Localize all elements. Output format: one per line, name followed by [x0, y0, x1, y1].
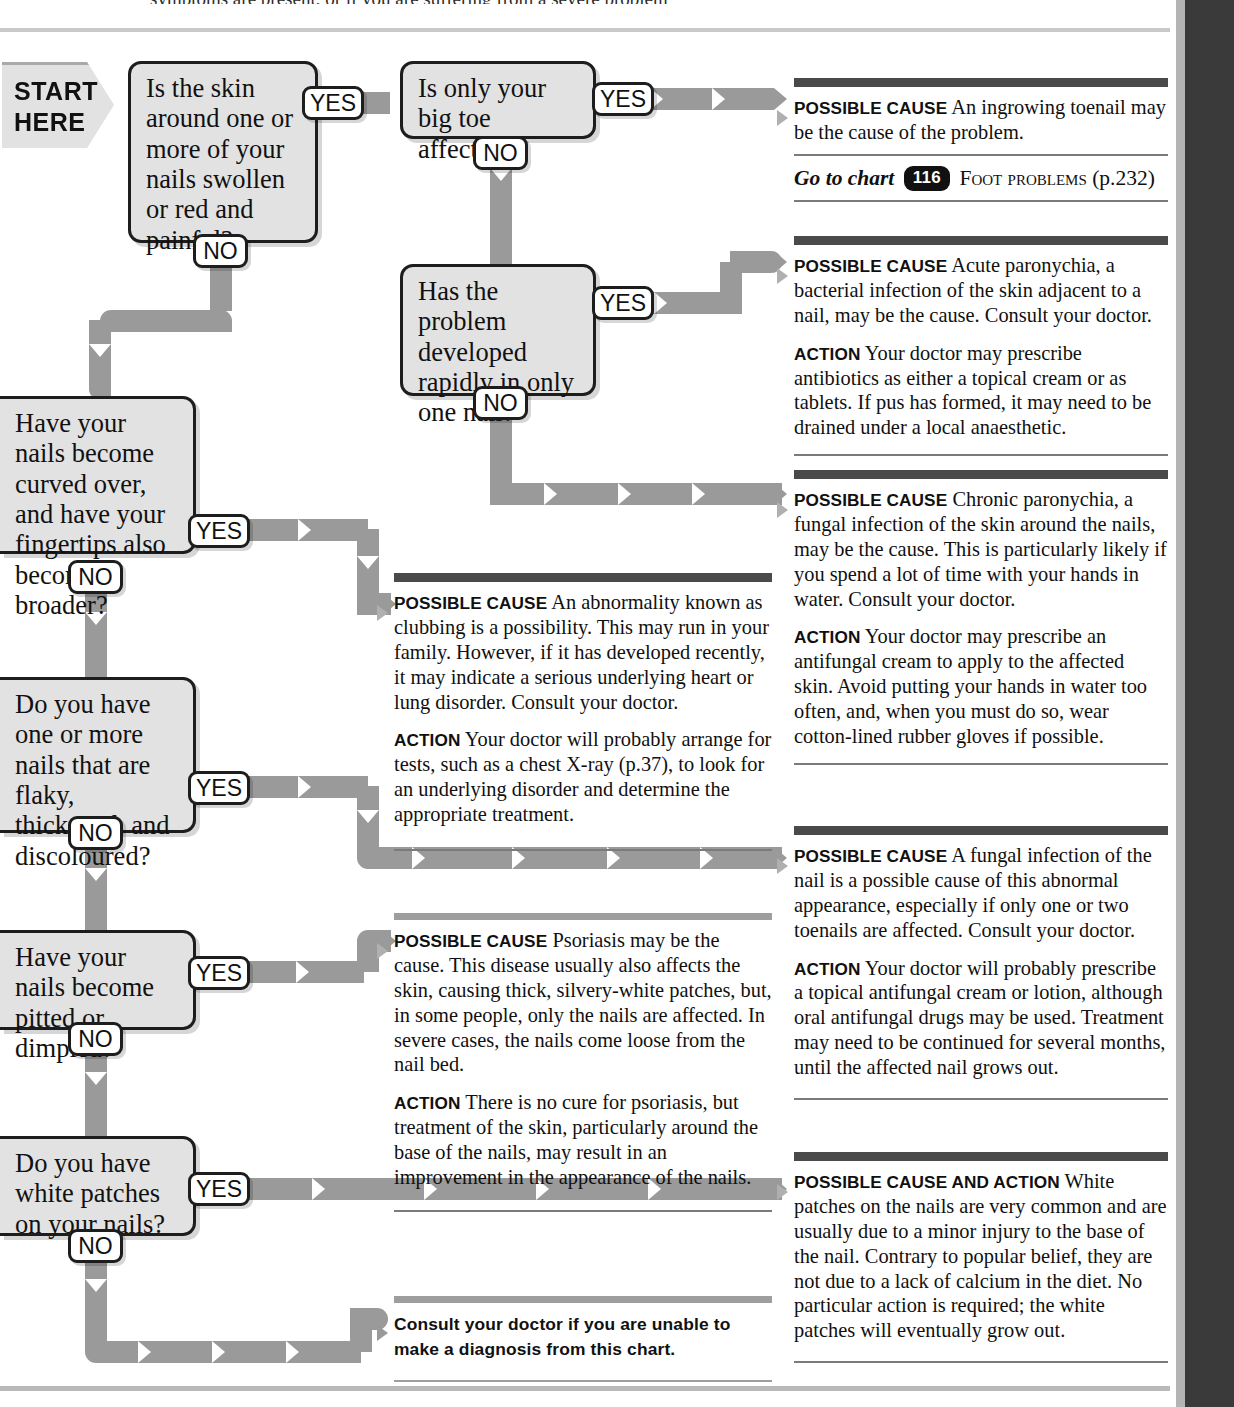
action-label: Action	[394, 730, 460, 750]
block-hairline	[794, 200, 1168, 202]
bottom-divider-rule	[0, 1386, 1170, 1391]
goto-chart-page: (p.232)	[1092, 166, 1155, 190]
question-box-q5[interactable]: Do you have one or more nails that are f…	[0, 677, 196, 833]
yes-pill-q5[interactable]: YES	[188, 771, 250, 805]
connector-q7-no	[85, 1257, 107, 1353]
possible-cause-label: Possible cause	[794, 256, 947, 276]
question-text: Do you have white patches on your nails?	[15, 1148, 165, 1239]
block-arrow-icon	[377, 605, 388, 621]
chevron-icon	[299, 1341, 312, 1363]
no-label: NO	[78, 1026, 113, 1053]
answer-block-clubbing: Possible cause An abnormality known as c…	[394, 573, 772, 851]
question-box-q3[interactable]: Has the problem developed rapidly in onl…	[400, 264, 596, 396]
possible-cause-paragraph: Possible cause An abnormality known as c…	[394, 590, 772, 714]
chevron-down-icon	[89, 372, 111, 385]
clipped-header-text: symptoms are present, or if you are suff…	[150, 0, 1010, 4]
top-divider-rule	[0, 28, 1170, 32]
block-top-bar	[794, 826, 1168, 835]
yes-label: YES	[196, 775, 242, 802]
chevron-icon	[225, 1341, 238, 1363]
yes-pill-q2[interactable]: YES	[592, 82, 654, 116]
no-pill-q7[interactable]: NO	[68, 1229, 123, 1263]
block-hairline	[794, 1098, 1168, 1100]
chevron-notch-icon	[357, 556, 379, 569]
no-pill-q6[interactable]: NO	[68, 1022, 123, 1056]
chevron-notch-icon	[357, 810, 379, 823]
yes-label: YES	[600, 86, 646, 113]
chevron-notch-icon	[712, 88, 725, 110]
block-top-bar	[794, 78, 1168, 87]
question-box-q7[interactable]: Do you have white patches on your nails?	[0, 1136, 196, 1236]
action-label: Action	[794, 627, 860, 647]
yes-label: YES	[310, 90, 356, 117]
chevron-notch-icon	[654, 292, 667, 314]
diagnostic-chart-page: symptoms are present, or if you are suff…	[0, 0, 1234, 1407]
answer-block-white-patches: Possible cause and action White patches …	[794, 1152, 1168, 1363]
no-pill-q5[interactable]: NO	[68, 816, 123, 850]
block-arrow-icon	[777, 502, 788, 518]
possible-cause-paragraph: Possible cause Acute paronychia, a bacte…	[794, 253, 1168, 328]
action-label: Action	[394, 1093, 460, 1113]
goto-chart-name: Foot problems	[959, 166, 1086, 190]
question-box-q2[interactable]: Is only your big toe affected?	[400, 61, 596, 139]
chevron-icon	[309, 961, 322, 983]
yes-pill-q6[interactable]: YES	[188, 956, 250, 990]
block-hairline	[394, 849, 772, 851]
possible-cause-and-action-label: Possible cause and action	[794, 1172, 1060, 1192]
no-pill-q1[interactable]: NO	[193, 234, 248, 268]
final-note-text: Consult your doctor if you are unable to…	[394, 1312, 772, 1362]
edge-bar-highlight	[1176, 0, 1185, 1407]
question-text: Is the skin around one or more of your n…	[146, 73, 293, 255]
possible-cause-label: Possible cause	[794, 490, 947, 510]
action-paragraph: Action There is no cure for psoriasis, b…	[394, 1090, 772, 1190]
chart-number-badge[interactable]: 116	[904, 166, 950, 191]
possible-cause-label: Possible cause	[794, 846, 947, 866]
question-box-q6[interactable]: Have your nails become pitted or dimpled…	[0, 930, 196, 1030]
chevron-notch-icon	[544, 483, 557, 505]
yes-pill-q4[interactable]: YES	[188, 514, 250, 548]
possible-cause-paragraph: Possible cause Chronic paronychia, a fun…	[794, 487, 1168, 611]
chevron-notch-icon	[298, 519, 311, 541]
chevron-notch-icon	[618, 483, 631, 505]
answer-block-chronic-paronychia: Possible cause Chronic paronychia, a fun…	[794, 470, 1168, 765]
connector-q2-no	[490, 168, 512, 264]
no-pill-q2[interactable]: NO	[473, 136, 528, 170]
no-pill-q3[interactable]: NO	[473, 386, 528, 420]
chevron-icon	[705, 483, 718, 505]
chevron-icon	[725, 88, 738, 110]
block-arrow-icon	[777, 1184, 788, 1200]
chevron-notch-icon	[85, 1072, 107, 1085]
start-label-line2: HERE	[14, 107, 114, 138]
page-edge-bar	[1185, 0, 1234, 1407]
block-arrow-icon	[777, 858, 788, 874]
block-top-bar	[794, 1152, 1168, 1161]
answer-block-acute-paronychia: Possible cause Acute paronychia, a bacte…	[794, 236, 1168, 456]
question-box-q4[interactable]: Have your nails become curved over, and …	[0, 396, 196, 554]
no-pill-q4[interactable]: NO	[68, 560, 123, 594]
chevron-icon	[663, 88, 676, 110]
action-label: Action	[794, 344, 860, 364]
yes-pill-q1[interactable]: YES	[302, 86, 364, 120]
possible-cause-paragraph: Possible cause Psoriasis may be the caus…	[394, 928, 772, 1077]
no-label: NO	[78, 820, 113, 847]
action-paragraph: Action Your doctor may prescribe an anti…	[794, 624, 1168, 748]
connector-q1-no-horiz	[100, 310, 232, 332]
block-top-bar	[394, 913, 772, 920]
yes-pill-q7[interactable]: YES	[188, 1172, 250, 1206]
chevron-icon	[325, 1178, 338, 1200]
question-box-q1[interactable]: Is the skin around one or more of your n…	[128, 61, 318, 243]
action-label: Action	[794, 959, 860, 979]
no-label: NO	[483, 140, 518, 167]
yes-label: YES	[196, 518, 242, 545]
block-top-bar	[794, 470, 1168, 479]
block-hairline	[794, 154, 1168, 156]
yes-pill-q3[interactable]: YES	[592, 286, 654, 320]
answer-block-psoriasis: Possible cause Psoriasis may be the caus…	[394, 913, 772, 1212]
action-paragraph: Action Your doctor will probably arrange…	[394, 727, 772, 827]
chevron-down-icon	[85, 1100, 107, 1113]
possible-cause-text: White patches on the nails are very comm…	[794, 1170, 1167, 1341]
possible-cause-paragraph: Possible cause A fungal infection of the…	[794, 843, 1168, 943]
chevron-icon	[311, 776, 324, 798]
chevron-notch-icon	[296, 961, 309, 983]
yes-label: YES	[196, 960, 242, 987]
